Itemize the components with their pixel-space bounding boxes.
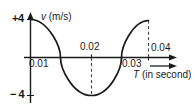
velocity-time-graph: +4 − 4 v (m/s) 0.01 0.02 0.03 0.04 T (in… [0,0,195,111]
x-axis-title: T (in second) [133,70,191,80]
x-axis-symbol: T [133,69,139,80]
y-axis-symbol: v [41,11,46,22]
x-tick-label-0-02: 0.02 [80,42,99,52]
x-tick-label-0-04: 0.04 [151,43,170,53]
x-axis-unit: (in second) [142,69,191,80]
y-axis-min-label: − 4 [10,89,24,100]
y-axis-max-label: +4 [12,13,24,24]
x-tick-label-0-01: 0.01 [29,59,48,69]
y-axis-title: v (m/s) [41,12,72,22]
graph-canvas [0,0,195,111]
x-tick-label-0-03: 0.03 [122,59,141,69]
x-axis-arrowhead-upper [169,55,177,61]
y-axis-unit: (m/s) [49,11,72,22]
y-axis-arrowhead [27,12,33,20]
